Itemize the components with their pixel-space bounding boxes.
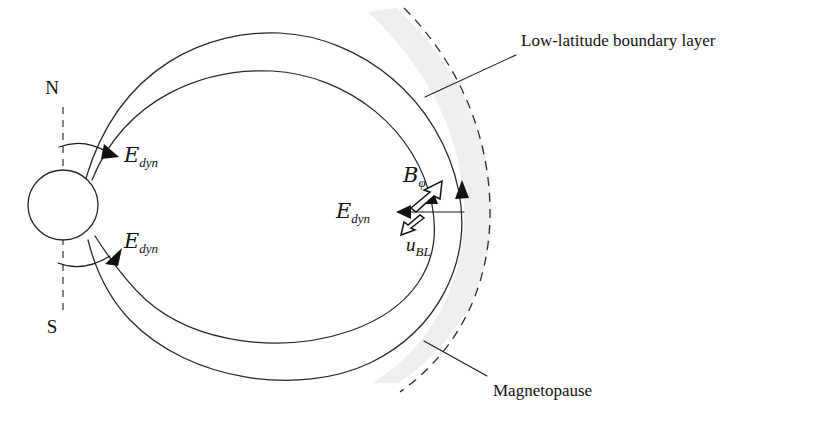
e-dyn-boundary-label: Edyn <box>335 199 370 226</box>
u-bl-subscript: BL <box>416 244 431 259</box>
figure-root: N S Low-latitude boundary layer Magnetop… <box>0 0 815 424</box>
e-dyn-north-label: Edyn <box>123 143 158 170</box>
e-dyn-boundary-subscript: dyn <box>351 211 370 226</box>
e-dyn-south-symbol: E <box>123 229 139 253</box>
u-bl-label: uBL <box>406 234 431 259</box>
magnetopause-leader <box>424 341 487 376</box>
south-pole-label: S <box>47 316 58 337</box>
magnetosphere-diagram: N S Low-latitude boundary layer Magnetop… <box>0 0 815 424</box>
e-dyn-south-arrow <box>58 248 122 267</box>
planet-body <box>28 170 98 240</box>
b-phi-label: Bφ <box>402 163 426 190</box>
e-dyn-north-subscript: dyn <box>139 155 158 170</box>
svg-text:uBL: uBL <box>406 234 431 259</box>
e-dyn-north-symbol: E <box>123 143 139 167</box>
svg-text:Edyn: Edyn <box>335 199 370 226</box>
north-pole-label: N <box>45 77 59 98</box>
svg-text:Edyn: Edyn <box>123 229 158 256</box>
magnetopause-annotation: Magnetopause <box>493 381 592 400</box>
svg-text:Bφ: Bφ <box>402 163 426 190</box>
e-dyn-boundary-arrow <box>396 205 464 219</box>
e-dyn-south-subscript: dyn <box>139 241 158 256</box>
outer-field-line <box>86 33 462 381</box>
u-bl-symbol: u <box>406 234 416 255</box>
boundary-layer-annotation: Low-latitude boundary layer <box>521 31 716 50</box>
b-phi-symbol: B <box>402 163 418 187</box>
e-dyn-boundary-symbol: E <box>335 199 351 223</box>
e-dyn-south-label: Edyn <box>123 229 158 256</box>
svg-text:Edyn: Edyn <box>123 143 158 170</box>
b-phi-subscript: φ <box>418 175 425 190</box>
inner-field-line <box>92 71 434 343</box>
